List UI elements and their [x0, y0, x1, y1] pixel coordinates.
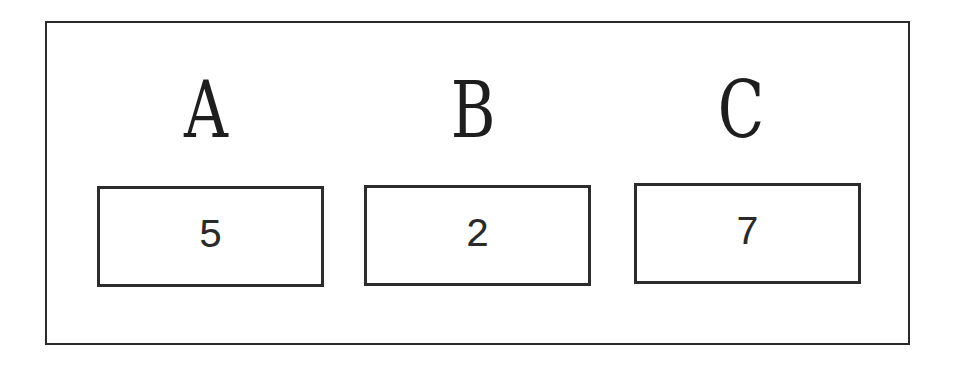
variable-value-c: 7 [735, 214, 759, 254]
variable-label-a: A [159, 68, 253, 152]
variable-label-b: B [426, 68, 520, 152]
variable-label-c: C [694, 68, 788, 152]
variable-box-b: 2 [364, 185, 591, 286]
variable-value-a: 5 [198, 217, 222, 257]
variable-box-c: 7 [634, 183, 861, 284]
variable-box-a: 5 [97, 186, 324, 287]
variable-value-b: 2 [465, 216, 489, 256]
